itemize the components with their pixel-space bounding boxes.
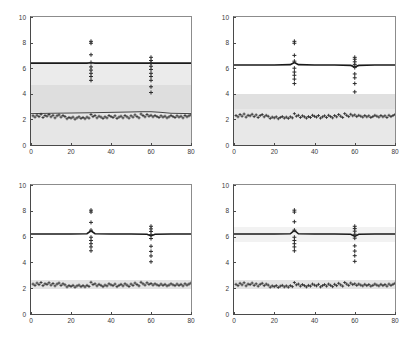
y-tick-label: 10 [12, 182, 26, 189]
plus-marker [251, 113, 254, 116]
plus-marker [292, 77, 296, 81]
plus-marker [245, 116, 248, 119]
plus-marker [292, 73, 296, 77]
trace-upper-flat-line [234, 230, 395, 236]
plus-marker [149, 85, 153, 89]
plus-marker [292, 210, 296, 214]
y-tick-label: 8 [12, 207, 26, 214]
plus-marker [96, 284, 99, 287]
plus-marker [149, 78, 153, 82]
plus-marker [247, 283, 250, 286]
x-tick-mark [191, 312, 192, 315]
y-tick-label: 8 [12, 39, 26, 46]
y-tick-label: 8 [215, 207, 229, 214]
plus-marker [257, 285, 260, 288]
x-tick-mark [31, 143, 32, 146]
y-tick-label: 4 [215, 90, 229, 97]
plus-marker [243, 281, 246, 284]
plus-marker [149, 244, 153, 248]
x-tick-mark [151, 312, 152, 315]
y-tick-mark [30, 68, 33, 69]
plus-marker [293, 281, 296, 284]
y-tick-mark [233, 17, 236, 18]
plus-marker [122, 116, 125, 119]
plus-marker [182, 116, 185, 119]
plus-marker [263, 284, 266, 287]
x-tick-label: 40 [308, 317, 322, 324]
plus-marker [292, 82, 296, 86]
plus-marker [239, 282, 242, 285]
plus-marker [353, 90, 357, 94]
panel-bottom-right: 0246810020406080 [203, 168, 407, 337]
x-tick-label: 60 [348, 148, 362, 155]
y-tick-mark [30, 237, 33, 238]
y-tick-mark [233, 211, 236, 212]
plus-marker [146, 113, 149, 116]
x-tick-mark [274, 312, 275, 315]
y-tick-label: 4 [215, 259, 229, 266]
plus-marker [89, 249, 93, 253]
plus-marker [146, 281, 149, 284]
x-tick-label: 60 [144, 317, 158, 324]
y-tick-label: 4 [12, 90, 26, 97]
plus-marker [149, 249, 153, 253]
x-tick-label: 80 [388, 317, 402, 324]
y-tick-label: 2 [215, 116, 229, 123]
data-layer [31, 17, 191, 145]
x-tick-mark [395, 312, 396, 315]
trace-upper-flat-line [31, 231, 191, 236]
y-tick-mark [233, 237, 236, 238]
x-tick-label: 0 [227, 317, 241, 324]
plus-marker [245, 284, 248, 287]
plus-marker [60, 116, 63, 119]
y-tick-mark [30, 288, 33, 289]
x-tick-label: 60 [144, 148, 158, 155]
x-tick-mark [31, 312, 32, 315]
data-layer [234, 185, 395, 314]
plus-marker [299, 116, 302, 119]
plus-marker [255, 282, 258, 285]
plus-marker [149, 67, 153, 71]
plus-marker [353, 249, 357, 253]
plus-marker [52, 282, 55, 285]
y-tick-label: 10 [215, 182, 229, 189]
plus-marker [182, 284, 185, 287]
x-tick-mark [315, 312, 316, 315]
x-tick-label: 40 [308, 148, 322, 155]
plus-marker [353, 72, 357, 76]
plus-marker [52, 114, 55, 117]
plus-marker [253, 284, 256, 287]
plus-marker [325, 116, 328, 119]
plus-marker [89, 41, 93, 45]
plus-marker [263, 115, 266, 118]
plus-marker [149, 254, 153, 258]
plus-marker [134, 282, 137, 285]
x-tick-mark [111, 143, 112, 146]
y-tick-mark [30, 211, 33, 212]
x-tick-mark [71, 143, 72, 146]
plus-marker [292, 41, 296, 45]
plus-marker [251, 282, 254, 285]
data-layer [31, 185, 191, 314]
x-tick-label: 20 [64, 148, 78, 155]
y-tick-mark [233, 43, 236, 44]
y-tick-mark [233, 68, 236, 69]
plus-marker [44, 282, 47, 285]
plus-marker [89, 75, 93, 79]
plus-marker [42, 116, 45, 119]
plus-marker [149, 237, 153, 241]
y-tick-label: 6 [12, 233, 26, 240]
x-tick-label: 20 [267, 317, 281, 324]
plus-marker [353, 82, 357, 86]
plus-marker [349, 113, 352, 116]
y-tick-mark [233, 288, 236, 289]
plus-marker [353, 76, 357, 80]
x-tick-label: 20 [267, 148, 281, 155]
plus-marker [241, 283, 244, 286]
y-tick-label: 2 [12, 116, 26, 123]
plus-marker [317, 114, 320, 117]
plus-marker [96, 116, 99, 119]
y-tick-mark [233, 185, 236, 186]
y-tick-mark [30, 43, 33, 44]
plus-marker [353, 236, 357, 240]
